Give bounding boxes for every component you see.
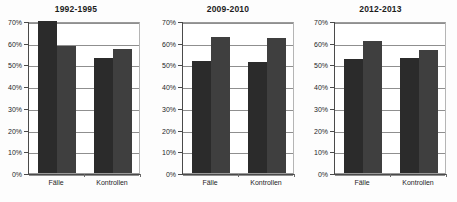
x-axis-tick xyxy=(390,174,391,177)
y-axis-tick-label: 30% xyxy=(306,106,328,113)
y-axis-tick-label: 0% xyxy=(306,171,328,178)
y-axis-tick-label: 20% xyxy=(306,128,328,135)
y-axis-tick-label: 10% xyxy=(306,149,328,156)
y-axis-tick-label: 50% xyxy=(0,62,22,69)
x-axis-category-label: Kontrollen xyxy=(390,179,446,187)
panel-title: 1992-1995 xyxy=(0,0,152,18)
y-axis-tick-label: 0% xyxy=(154,171,176,178)
y-axis-line xyxy=(182,22,183,174)
y-axis-tick-label: 20% xyxy=(0,128,22,135)
y-axis-tick-label: 40% xyxy=(306,84,328,91)
bar xyxy=(267,38,286,173)
x-axis-category-label: Kontrollen xyxy=(238,179,294,187)
multi-panel-bar-chart-figure: 1992-1995 0%10%20%30%40%50%60%70%FälleKo… xyxy=(0,0,457,202)
y-axis-tick-label: 50% xyxy=(154,62,176,69)
y-axis-tick-label: 0% xyxy=(0,171,22,178)
plot-area xyxy=(334,22,446,174)
bar xyxy=(192,61,211,173)
panel-title: 2009-2010 xyxy=(152,0,304,18)
chart-panel-2012-2013: 2012-2013 0%10%20%30%40%50%60%70%FälleKo… xyxy=(304,0,457,202)
gridline xyxy=(335,23,445,24)
x-axis-category-label: Kontrollen xyxy=(84,179,140,187)
x-axis-tick xyxy=(140,174,141,177)
y-axis-tick-label: 10% xyxy=(154,149,176,156)
bar xyxy=(113,49,132,173)
y-axis-tick-label: 60% xyxy=(154,41,176,48)
bar xyxy=(57,46,76,173)
panel-title: 2012-2013 xyxy=(304,0,457,18)
y-axis-tick-label: 30% xyxy=(0,106,22,113)
y-axis-tick-label: 20% xyxy=(154,128,176,135)
plot-area-wrapper: 0%10%20%30%40%50%60%70%FälleKontrollen xyxy=(334,22,446,174)
y-axis-tick-label: 70% xyxy=(0,19,22,26)
x-axis-category-label: Fälle xyxy=(182,179,238,187)
bar xyxy=(38,21,57,173)
chart-panel-1992-1995: 1992-1995 0%10%20%30%40%50%60%70%FälleKo… xyxy=(0,0,152,202)
gridline xyxy=(183,23,293,24)
y-axis-tick-label: 60% xyxy=(0,41,22,48)
y-axis-tick-label: 10% xyxy=(0,149,22,156)
y-axis-tick-label: 40% xyxy=(154,84,176,91)
x-axis-category-label: Fälle xyxy=(28,179,84,187)
y-axis-tick-label: 60% xyxy=(306,41,328,48)
bar xyxy=(363,41,382,173)
x-axis-tick xyxy=(446,174,447,177)
plot-area xyxy=(28,22,140,174)
plot-area-wrapper: 0%10%20%30%40%50%60%70%FälleKontrollen xyxy=(28,22,140,174)
bar xyxy=(400,58,419,173)
bar xyxy=(248,62,267,173)
y-axis-line xyxy=(28,22,29,174)
bar xyxy=(419,50,438,173)
chart-panel-2009-2010: 2009-2010 0%10%20%30%40%50%60%70%FälleKo… xyxy=(152,0,304,202)
y-axis-tick-label: 70% xyxy=(306,19,328,26)
x-axis-tick xyxy=(294,174,295,177)
y-axis-tick-label: 50% xyxy=(306,62,328,69)
y-axis-tick-label: 40% xyxy=(0,84,22,91)
plot-area xyxy=(182,22,294,174)
x-axis-tick xyxy=(238,174,239,177)
x-axis-tick xyxy=(84,174,85,177)
bar xyxy=(344,59,363,173)
gridline xyxy=(335,45,445,46)
bar xyxy=(94,58,113,173)
bar xyxy=(211,37,230,173)
y-axis-line xyxy=(334,22,335,174)
x-axis-category-label: Fälle xyxy=(334,179,390,187)
plot-area-wrapper: 0%10%20%30%40%50%60%70%FälleKontrollen xyxy=(182,22,294,174)
y-axis-tick-label: 30% xyxy=(154,106,176,113)
y-axis-tick-label: 70% xyxy=(154,19,176,26)
